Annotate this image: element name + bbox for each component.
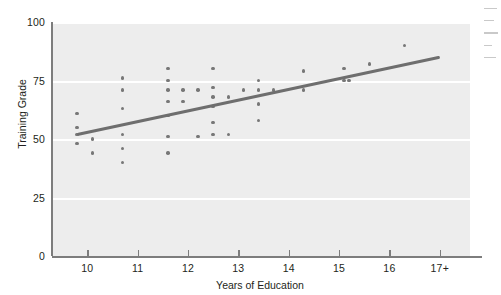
x-axis-tick-label: 12: [168, 262, 208, 274]
y-axis-tick-label: 0: [5, 250, 45, 262]
data-point: [257, 88, 260, 91]
x-axis-tick-label: 14: [269, 262, 309, 274]
data-point: [166, 135, 169, 138]
x-axis-tick-label: 17+: [420, 262, 460, 274]
x-axis-tick-label: 11: [118, 262, 158, 274]
data-point: [166, 88, 169, 91]
data-point: [121, 88, 124, 91]
data-point: [166, 100, 169, 103]
x-axis-line: [52, 256, 482, 258]
data-point: [181, 100, 184, 103]
data-point: [75, 126, 78, 129]
x-axis-tick-label: 15: [319, 262, 359, 274]
data-point: [242, 88, 245, 91]
gridline-25: [52, 198, 470, 200]
data-point: [347, 79, 350, 82]
y-axis-tick-label: 25: [5, 192, 45, 204]
data-point: [211, 133, 214, 136]
x-axis-tick: [138, 250, 139, 257]
data-point: [166, 79, 169, 82]
y-axis-tick-label: 100: [5, 16, 45, 28]
gridline-100: [52, 22, 470, 24]
data-point: [227, 133, 230, 136]
data-point: [368, 62, 371, 65]
x-axis-tick-label: 16: [369, 262, 409, 274]
x-axis-tick: [440, 250, 441, 257]
data-point: [121, 76, 124, 79]
plot-area: [52, 22, 470, 256]
scatter-plot-figure: 1011121314151617+ 0255075100 Training Gr…: [0, 0, 501, 295]
data-point: [91, 151, 94, 154]
data-point: [91, 137, 94, 140]
data-point: [257, 119, 260, 122]
x-axis-title: Years of Education: [160, 279, 360, 291]
data-point: [227, 95, 230, 98]
x-axis-tick: [238, 250, 239, 257]
x-axis-tick-label: 10: [67, 262, 107, 274]
data-point: [211, 86, 214, 89]
data-point: [181, 88, 184, 91]
y-axis-line: [51, 22, 53, 256]
data-point: [196, 88, 199, 91]
data-point: [257, 102, 260, 105]
x-axis-tick: [289, 250, 290, 257]
x-axis-tick-label: 13: [218, 262, 258, 274]
x-axis-tick: [339, 250, 340, 257]
gridline-50: [52, 139, 470, 141]
data-point: [342, 79, 345, 82]
y-axis-title: Training Grade: [16, 59, 28, 169]
gridline-75: [52, 81, 470, 83]
data-point: [75, 112, 78, 115]
data-point: [211, 95, 214, 98]
page-margin-text-artifact: [484, 8, 500, 58]
x-axis-tick: [188, 250, 189, 257]
x-axis-tick: [389, 250, 390, 257]
data-point: [166, 151, 169, 154]
x-axis-tick: [87, 250, 88, 257]
